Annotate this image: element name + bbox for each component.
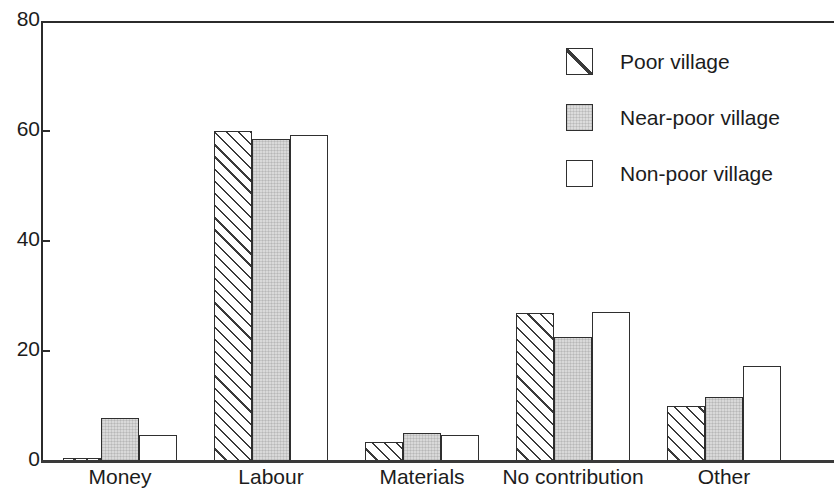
bar-group-labour [214, 21, 328, 461]
x-axis-baseline [41, 460, 834, 463]
y-axis-tick-label: 40 [17, 228, 40, 249]
y-axis-tick-label: 20 [17, 338, 40, 359]
legend-item-near-poor-village: Near-poor village [566, 98, 780, 136]
bar-no-contribution-poor-village [516, 313, 554, 462]
bar-materials-poor-village [365, 442, 403, 461]
bar-money-near-poor-village [101, 418, 139, 461]
y-axis-tick-label: 60 [17, 118, 40, 139]
bar-group-bars [63, 21, 177, 461]
legend-item-non-poor-village: Non-poor village [566, 154, 780, 192]
chart-legend: Poor villageNear-poor villageNon-poor vi… [566, 42, 780, 192]
bar-other-non-poor-village [743, 366, 781, 461]
bar-group-materials [365, 21, 479, 461]
y-axis-tick-label: 80 [17, 8, 40, 29]
bar-other-near-poor-village [705, 397, 743, 461]
bar-no-contribution-near-poor-village [554, 337, 592, 461]
bar-materials-non-poor-village [441, 435, 479, 461]
bar-labour-poor-village [214, 131, 252, 461]
hatched-square-swatch-icon [566, 48, 593, 75]
legend-item-label: Poor village [620, 51, 730, 72]
bar-chart-figure: 020406080 MoneyLabourMaterialsNo contrib… [0, 0, 834, 496]
bar-materials-near-poor-village [403, 433, 441, 461]
gray-square-swatch-icon [566, 104, 593, 131]
bar-labour-near-poor-village [252, 139, 290, 461]
bar-no-contribution-non-poor-village [592, 312, 630, 461]
bar-group-money [63, 21, 177, 461]
white-square-swatch-icon [566, 160, 593, 187]
legend-item-poor-village: Poor village [566, 42, 780, 80]
bar-money-non-poor-village [139, 435, 177, 461]
bar-group-bars [365, 21, 479, 461]
legend-item-label: Non-poor village [620, 163, 773, 184]
x-axis-category-label: Other [622, 466, 826, 487]
legend-item-label: Near-poor village [620, 107, 780, 128]
bar-group-bars [214, 21, 328, 461]
bar-labour-non-poor-village [290, 135, 328, 461]
bar-other-poor-village [667, 406, 705, 461]
